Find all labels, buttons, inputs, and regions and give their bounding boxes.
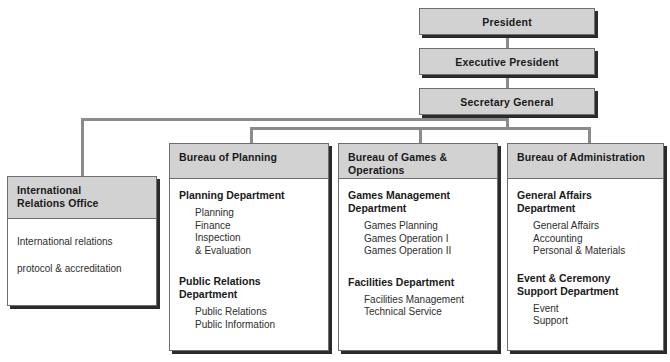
card-bureau-of-administration-title: Bureau of Administration bbox=[517, 151, 654, 164]
connector-executive-to-secretary bbox=[506, 75, 509, 88]
card-bureau-of-games-and-operations[interactable]: Bureau of Games & Operations Games Manag… bbox=[338, 143, 498, 351]
card-bureau-of-games-and-operations-body: Games Management Department Games Planni… bbox=[339, 179, 497, 350]
list-item: Accounting bbox=[533, 233, 654, 246]
department-event-ceremony-support: Event & Ceremony Support Department Even… bbox=[517, 272, 654, 328]
list-item: Event bbox=[533, 303, 654, 316]
connector-to-international-relations-office bbox=[81, 118, 84, 176]
department-games-management-items: Games Planning Games Operation I Games O… bbox=[348, 220, 488, 258]
department-games-management-title: Games Management Department bbox=[348, 189, 488, 215]
department-planning-title: Planning Department bbox=[179, 189, 319, 202]
department-facilities-title: Facilities Department bbox=[348, 276, 488, 289]
node-secretary-general[interactable]: Secretary General bbox=[419, 88, 595, 115]
department-event-ceremony-support-items: Event Support bbox=[517, 303, 654, 328]
department-facilities: Facilities Department Facilities Managem… bbox=[348, 276, 488, 319]
card-bureau-of-administration-body: General Affairs Department General Affai… bbox=[508, 179, 663, 350]
list-item: Planning bbox=[195, 207, 319, 220]
list-item: Support bbox=[533, 315, 654, 328]
spacer bbox=[179, 259, 319, 275]
card-bureau-of-planning-body: Planning Department Planning Finance Ins… bbox=[170, 179, 328, 350]
card-bureau-of-administration[interactable]: Bureau of Administration General Affairs… bbox=[507, 143, 664, 351]
list-item: Personal & Materials bbox=[533, 245, 654, 258]
department-public-relations-title: Public Relations Department bbox=[179, 275, 319, 301]
department-facilities-items: Facilities Management Technical Service bbox=[348, 294, 488, 319]
department-public-relations: Public Relations Department Public Relat… bbox=[179, 275, 319, 331]
spacer bbox=[348, 260, 488, 276]
list-item: Facilities Management bbox=[364, 294, 488, 307]
list-item: Public Information bbox=[195, 319, 319, 332]
card-bureau-of-planning-title: Bureau of Planning bbox=[179, 151, 319, 164]
department-general-affairs-items: General Affairs Accounting Personal & Ma… bbox=[517, 220, 654, 258]
card-bureau-of-games-and-operations-title: Bureau of Games & Operations bbox=[348, 151, 488, 177]
node-secretary-general-label: Secretary General bbox=[460, 96, 553, 108]
spacer bbox=[517, 260, 654, 272]
department-planning-items: Planning Finance Inspection & Evaluation bbox=[179, 207, 319, 257]
node-president-label: President bbox=[482, 16, 532, 28]
card-international-relations-office-title: International Relations Office bbox=[17, 184, 147, 210]
card-bureau-of-planning-header: Bureau of Planning bbox=[170, 144, 328, 179]
department-general-affairs-title: General Affairs Department bbox=[517, 189, 654, 215]
list-item: Finance bbox=[195, 220, 319, 233]
card-bureau-of-games-and-operations-header: Bureau of Games & Operations bbox=[339, 144, 497, 179]
connector-to-bureau-games bbox=[419, 127, 422, 143]
list-item: Inspection bbox=[195, 232, 319, 245]
list-item: Games Operation I bbox=[364, 233, 488, 246]
department-games-management: Games Management Department Games Planni… bbox=[348, 189, 488, 258]
node-executive-president[interactable]: Executive President bbox=[419, 48, 595, 75]
department-planning: Planning Department Planning Finance Ins… bbox=[179, 189, 319, 257]
department-general-affairs: General Affairs Department General Affai… bbox=[517, 189, 654, 258]
list-item: Technical Service bbox=[364, 306, 488, 319]
node-president[interactable]: President bbox=[419, 8, 595, 35]
card-bureau-of-administration-header: Bureau of Administration bbox=[508, 144, 663, 179]
node-executive-president-label: Executive President bbox=[455, 56, 559, 68]
list-item: & Evaluation bbox=[195, 245, 319, 258]
bus-line-upper bbox=[81, 118, 509, 121]
iro-line-1: International relations bbox=[17, 235, 147, 248]
list-item: Games Operation II bbox=[364, 245, 488, 258]
list-item: General Affairs bbox=[533, 220, 654, 233]
connector-to-bureau-planning bbox=[250, 127, 253, 143]
card-international-relations-office-body: International relations protocol & accre… bbox=[8, 219, 156, 305]
department-public-relations-items: Public Relations Public Information bbox=[179, 306, 319, 331]
iro-line-2: protocol & accreditation bbox=[17, 262, 147, 275]
card-bureau-of-planning[interactable]: Bureau of Planning Planning Department P… bbox=[169, 143, 329, 351]
list-item: Public Relations bbox=[195, 306, 319, 319]
list-item: Games Planning bbox=[364, 220, 488, 233]
org-chart: President Executive President Secretary … bbox=[0, 0, 670, 362]
department-event-ceremony-support-title: Event & Ceremony Support Department bbox=[517, 272, 654, 298]
connector-to-bureau-administration bbox=[588, 127, 591, 143]
card-international-relations-office-header: International Relations Office bbox=[8, 177, 156, 219]
card-international-relations-office[interactable]: International Relations Office Internati… bbox=[7, 176, 157, 306]
